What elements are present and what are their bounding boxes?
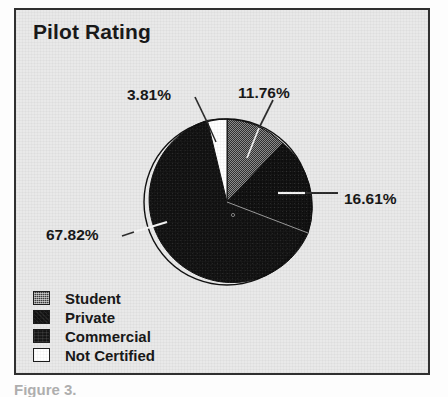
legend-swatch-student-icon — [33, 291, 50, 305]
pie-label-private: 16.61% — [344, 190, 397, 208]
pie-label-not-certified: 3.81% — [127, 86, 171, 104]
legend-label-private: Private — [65, 310, 115, 325]
page-title: Pilot Rating — [33, 20, 151, 44]
legend-label-student: Student — [65, 291, 121, 306]
legend-swatch-private-icon — [33, 310, 50, 324]
legend-item-private: Private — [33, 308, 155, 326]
legend-item-not-certified: Not Certified — [33, 346, 155, 364]
legend-item-student: Student — [33, 289, 155, 307]
leader-line-commercial-outer — [122, 232, 134, 236]
chart-frame: Pilot Rating — [14, 8, 430, 375]
figure-caption-text: Figure 3. — [14, 385, 77, 397]
legend: Student Private Commercial Not Certified — [33, 289, 155, 365]
pie-label-student: 11.76% — [238, 84, 290, 102]
legend-swatch-commercial-icon — [33, 329, 50, 343]
pie-label-commercial: 67.82% — [46, 226, 99, 244]
figure-root: Pilot Rating — [0, 0, 448, 397]
figure-caption: Figure 3. — [14, 385, 430, 397]
legend-label-not-certified: Not Certified — [65, 348, 155, 363]
leader-line-not-certified-outer — [195, 97, 208, 124]
legend-item-commercial: Commercial — [33, 327, 155, 345]
legend-swatch-not-certified-icon — [33, 348, 50, 362]
legend-label-commercial: Commercial — [65, 329, 151, 344]
leader-line-student-outer — [259, 100, 273, 128]
